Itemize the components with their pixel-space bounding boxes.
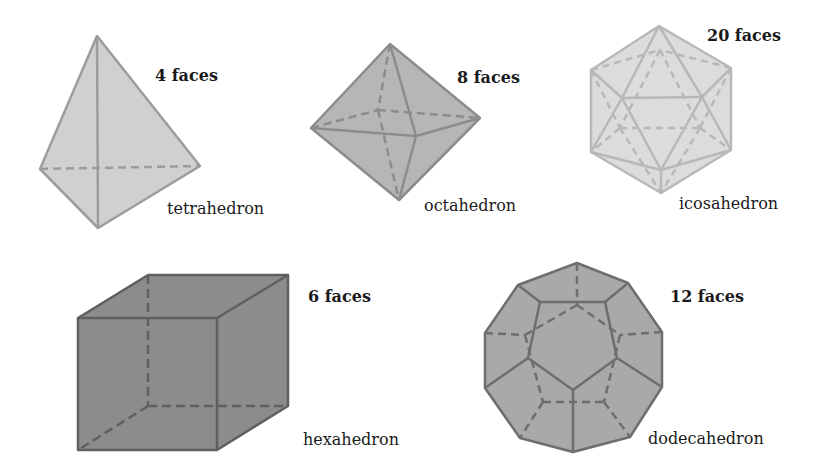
- platonic-solids-figure: [0, 0, 835, 468]
- hexahedron-faces-label: 6 faces: [308, 287, 371, 306]
- icosahedron-name-label: icosahedron: [679, 194, 778, 213]
- hexahedron-shape: [78, 275, 288, 450]
- tetrahedron-faces-label: 4 faces: [155, 66, 218, 85]
- dodecahedron-shape: [485, 263, 662, 452]
- dodecahedron-name-label: dodecahedron: [648, 429, 764, 448]
- dodecahedron-faces-label: 12 faces: [670, 287, 744, 306]
- tetrahedron-name-label: tetrahedron: [167, 199, 264, 218]
- icosahedron-faces-label: 20 faces: [707, 26, 781, 45]
- icosahedron-shape: [591, 26, 731, 193]
- octahedron-name-label: octahedron: [424, 196, 516, 215]
- hexahedron-name-label: hexahedron: [303, 430, 399, 449]
- octahedron-shape: [311, 44, 480, 200]
- octahedron-faces-label: 8 faces: [457, 68, 520, 87]
